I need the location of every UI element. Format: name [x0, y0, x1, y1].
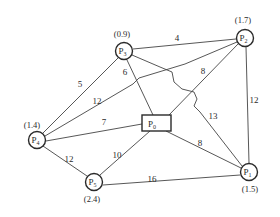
- weight-p3-p0: 6: [123, 67, 128, 77]
- weight-p3-p2: 4: [175, 33, 180, 43]
- weight-p3-p1: 13: [209, 111, 219, 121]
- node-p1: P1 (1.5): [241, 164, 259, 195]
- node-p0: P0: [142, 115, 171, 131]
- edge-p2-p1: [246, 47, 249, 163]
- node-p5: P5 (2.4): [84, 174, 103, 205]
- weight-p4-p0: 7: [102, 117, 107, 127]
- node-p5-value: (2.4): [84, 194, 100, 204]
- node-p2-value: (1.7): [235, 15, 251, 25]
- edge-p3-p4: [43, 58, 118, 133]
- edge-p0-p1: [166, 131, 241, 168]
- weight-p2-p1: 12: [250, 95, 259, 105]
- weight-p4-p2: 12: [93, 96, 102, 106]
- weight-p5-p1: 16: [148, 174, 158, 184]
- node-p2: P2 (1.7): [235, 15, 254, 47]
- node-p4-value: (1.4): [24, 120, 40, 130]
- edge-p3-p1: [132, 55, 242, 166]
- weight-p3-p4: 5: [78, 79, 83, 89]
- edge-p2-p0: [169, 44, 238, 115]
- weight-p4-p5: 12: [65, 154, 74, 164]
- edge-p5-p0: [100, 131, 150, 175]
- weight-p0-p1: 8: [198, 138, 203, 148]
- node-p3: P3 (0.9): [114, 29, 133, 60]
- node-p0-box: [142, 115, 171, 131]
- weight-p2-p0: 8: [201, 66, 206, 76]
- edge-p5-p1: [103, 175, 240, 185]
- weight-p5-p0: 10: [113, 150, 123, 160]
- edge-p3-p2: [133, 39, 236, 49]
- weighted-graph-diagram: 4 5 6 8 12 12 7 13 12 10 8 16 P0 P1 (1.5…: [0, 0, 280, 217]
- node-p4: P4 (1.4): [24, 120, 46, 149]
- edges: [43, 39, 249, 185]
- edge-weights: 4 5 6 8 12 12 7 13 12 10 8 16: [65, 33, 259, 184]
- node-p3-value: (0.9): [114, 29, 130, 39]
- edge-p3-p0: [127, 60, 153, 115]
- node-p1-value: (1.5): [242, 184, 258, 194]
